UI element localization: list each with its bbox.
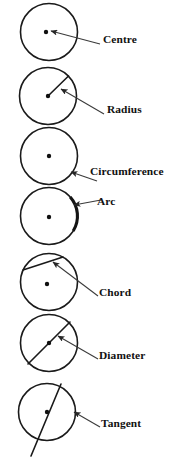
center-dot-icon (47, 341, 51, 345)
label-radius: Radius (107, 103, 142, 115)
label-diameter: Diameter (99, 349, 145, 361)
figure-tangent: Tangent (19, 384, 142, 457)
chord-segment (23, 257, 63, 270)
diagram-canvas: Centre Radius Circumference Arc (0, 0, 188, 475)
center-dot-icon (47, 215, 51, 219)
center-dot-icon (44, 30, 48, 34)
figure-diameter: Diameter (21, 315, 146, 372)
circle-outline-centre (21, 4, 78, 61)
leader-line-radius (61, 89, 104, 114)
center-dot-icon (47, 154, 51, 158)
circle-parts-diagram: Centre Radius Circumference Arc (0, 0, 188, 475)
center-dot-icon (46, 94, 50, 98)
figure-arc: Arc (21, 188, 116, 245)
center-dot-icon (45, 282, 49, 286)
label-arc: Arc (97, 195, 115, 207)
label-circumference: Circumference (90, 165, 164, 177)
leader-line-tangent (74, 412, 100, 427)
arc-segment (70, 197, 77, 231)
figure-radius: Radius (20, 68, 143, 125)
label-chord: Chord (99, 286, 132, 298)
figure-chord: Chord (21, 254, 132, 311)
label-centre: Centre (103, 33, 137, 45)
radius-segment (48, 76, 69, 96)
center-dot-icon (45, 410, 49, 414)
tangent-segment (31, 384, 61, 456)
figure-centre: Centre (21, 4, 137, 61)
label-tangent: Tangent (101, 417, 141, 429)
figure-circumference: Circumference (21, 128, 164, 185)
